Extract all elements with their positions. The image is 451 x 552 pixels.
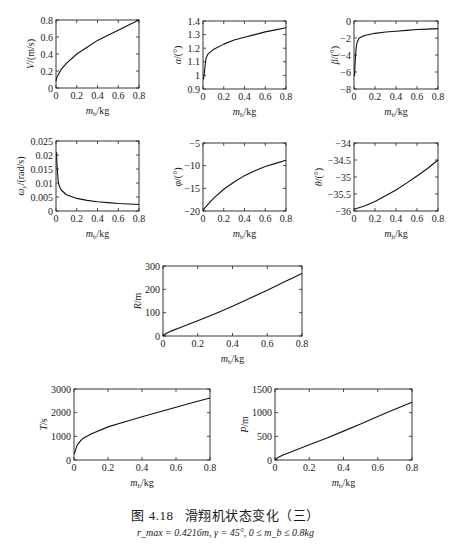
x-tick-label: 0: [54, 90, 59, 101]
x-tick-label: 0.8: [432, 91, 445, 102]
axes-frame: [275, 389, 412, 460]
x-tick-label: 0.8: [204, 462, 217, 473]
y-tick-label: 0.02: [36, 150, 54, 161]
x-tick-label: 0.2: [369, 213, 382, 224]
y-tick-label: 100: [145, 307, 160, 318]
y-tick-label: −34: [335, 138, 351, 149]
x-axis-label: mb/kg: [332, 477, 356, 490]
data-line-P: [275, 402, 412, 460]
axes-frame: [354, 143, 438, 211]
x-tick-label: 0.6: [411, 213, 424, 224]
y-tick-label: 1: [195, 70, 200, 81]
x-tick-label: 0.2: [369, 91, 382, 102]
y-tick-label: 0.8: [41, 15, 54, 26]
x-tick-label: 0: [161, 338, 166, 349]
y-axis-label: V/(m/s): [25, 39, 37, 69]
x-tick-label: 0: [201, 91, 206, 102]
y-tick-label: −15: [184, 183, 200, 194]
x-tick-label: 0.4: [91, 90, 104, 101]
x-tick-label: 0.2: [71, 90, 84, 101]
x-tick-label: 0.8: [133, 90, 146, 101]
x-tick-label: 0.2: [192, 338, 205, 349]
axes-frame: [163, 266, 302, 336]
y-axis-label: R/m: [132, 292, 143, 310]
x-tick-label: 0.4: [136, 462, 149, 473]
axes-frame: [56, 141, 139, 211]
subplot-V: 00.20.40.60.800.20.40.60.8mb/kgV/(m/s): [25, 15, 145, 119]
x-axis-label: mb/kg: [384, 106, 408, 119]
x-tick-label: 0.8: [133, 213, 146, 224]
x-axis-label: mb/kg: [221, 353, 245, 366]
y-tick-label: 2000: [51, 407, 71, 418]
y-axis-label: θ/(°): [313, 168, 325, 186]
data-line-R: [163, 273, 302, 336]
y-tick-label: 1000: [51, 431, 71, 442]
x-tick-label: 0.4: [91, 213, 104, 224]
y-axis-label: ωy/(rad/s): [15, 156, 28, 195]
x-tick-label: 0.8: [432, 213, 445, 224]
y-tick-label: 0: [48, 83, 53, 94]
subplot-R: 00.20.40.60.80100200300mb/kgR/m: [132, 261, 308, 367]
x-tick-label: 0: [54, 213, 59, 224]
caption-number: 图 4.18: [131, 508, 173, 523]
y-axis-label: α/(°): [172, 46, 184, 65]
x-tick-label: 0.6: [259, 213, 272, 224]
y-tick-label: 1.3: [188, 29, 201, 40]
y-tick-label: 0.9: [188, 84, 201, 95]
subplot-P: 00.20.40.60.8050010001500mb/kgP/m: [239, 384, 418, 491]
subplot-theta: 00.20.40.60.8−36−35.5−35−34.5−34mb/kgθ/(…: [313, 138, 444, 242]
x-tick-label: 0: [273, 462, 278, 473]
y-tick-label: 0: [66, 455, 71, 466]
data-line-omega: [57, 152, 139, 204]
y-tick-label: −34.5: [328, 155, 351, 166]
data-line-V: [56, 20, 139, 81]
x-axis-label: mb/kg: [86, 228, 110, 241]
y-axis-label: T/s: [38, 418, 49, 430]
axes-frame: [74, 389, 210, 460]
subplot-T: 00.20.40.60.80100020003000mb/kgT/s: [38, 384, 216, 491]
x-tick-label: 0.6: [112, 213, 125, 224]
subplot-beta: 00.20.40.60.8−8−6−4−20mb/kgβ/(°): [329, 16, 445, 120]
y-tick-label: −35.5: [328, 189, 351, 200]
x-tick-label: 0: [201, 213, 206, 224]
axes-frame: [56, 20, 139, 88]
x-tick-label: 0.8: [280, 91, 293, 102]
data-line-theta: [354, 160, 438, 209]
y-tick-label: 1500: [252, 384, 272, 395]
y-tick-label: 200: [145, 284, 160, 295]
x-tick-label: 0.2: [102, 462, 115, 473]
x-axis-label: mb/kg: [233, 106, 257, 119]
subplot-alpha: 00.20.40.60.80.911.11.21.31.4mb/kgα/(°): [172, 16, 292, 120]
x-tick-label: 0: [352, 213, 357, 224]
y-tick-label: 3000: [51, 384, 71, 395]
x-tick-label: 0.4: [238, 213, 251, 224]
y-tick-label: −8: [340, 84, 351, 95]
data-line-phi: [203, 160, 286, 210]
axes-frame: [203, 21, 286, 89]
x-tick-label: 0.6: [112, 90, 125, 101]
y-tick-label: −36: [335, 206, 351, 217]
x-tick-label: 0.8: [296, 338, 309, 349]
x-axis-label: mb/kg: [384, 228, 408, 241]
y-axis-label: φ/(°): [172, 168, 184, 187]
y-tick-label: 0: [267, 455, 272, 466]
x-tick-label: 0.4: [238, 91, 251, 102]
x-tick-label: 0: [72, 462, 77, 473]
x-tick-label: 0.6: [259, 91, 272, 102]
x-tick-label: 0.4: [390, 213, 403, 224]
caption-title: 滑翔机状态变化（三）: [185, 508, 320, 523]
data-line-alpha: [204, 28, 286, 80]
y-tick-label: −6: [340, 67, 351, 78]
y-tick-label: −20: [184, 206, 200, 217]
y-tick-label: −5: [189, 138, 200, 149]
x-axis-label: mb/kg: [130, 477, 154, 490]
x-tick-label: 0.8: [280, 213, 293, 224]
y-tick-label: 0.6: [41, 32, 54, 43]
y-axis-label: P/m: [239, 416, 250, 434]
x-tick-label: 0.8: [406, 462, 419, 473]
y-tick-label: −35: [335, 172, 351, 183]
x-tick-label: 0.2: [218, 91, 231, 102]
x-tick-label: 0.6: [261, 338, 274, 349]
y-tick-label: 0.005: [31, 192, 54, 203]
x-tick-label: 0.4: [226, 338, 239, 349]
